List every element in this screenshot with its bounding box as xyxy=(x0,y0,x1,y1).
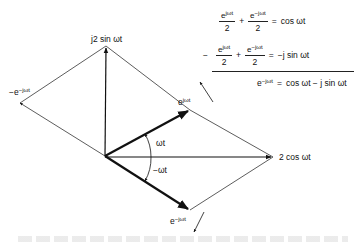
label-base: −e xyxy=(9,87,19,97)
line-upper-phasor-to-right xyxy=(190,110,273,157)
angle-arc-negative xyxy=(145,157,151,181)
numerator: ejωt xyxy=(219,10,235,22)
e-minus-jwt-phasor xyxy=(105,156,188,209)
result-lhs: e−jωt xyxy=(257,78,273,88)
summation-rule xyxy=(212,71,354,72)
num-exp: jωt xyxy=(222,44,230,50)
numerator: ejωt xyxy=(216,44,232,56)
eq-operator: + xyxy=(236,50,241,60)
label-j2-sin-prefix: j2 sin xyxy=(91,34,113,44)
eq-equals: = xyxy=(269,50,274,60)
label-exp: jωt xyxy=(183,97,191,103)
label-exp: −jωt xyxy=(19,87,30,93)
fraction-e-jwt-over-2: ejωt 2 xyxy=(216,44,232,67)
rotation-ccw-arrow-icon xyxy=(200,82,213,102)
label-angle-negative: −ωt xyxy=(153,166,167,175)
fraction-e-jwt-over-2: ejωt 2 xyxy=(219,10,235,33)
denominator: 2 xyxy=(225,22,230,33)
numerator: e−jωt xyxy=(248,10,268,22)
denominator: 2 xyxy=(253,56,258,67)
numerator: e−jωt xyxy=(245,44,265,56)
label-2-cos: 2 cos ωt xyxy=(279,153,311,162)
label-angle-positive: ωt xyxy=(156,139,165,148)
result-rhs: cos ωt − j sin ωt xyxy=(286,78,347,88)
eq-equals: = xyxy=(272,16,277,26)
denominator: 2 xyxy=(222,56,227,67)
num-exp: jωt xyxy=(225,10,233,16)
num-exp: −jωt xyxy=(255,10,266,16)
label-j2-sin-omega: ωt xyxy=(113,34,122,44)
equation-result: e−jωt = cos ωt − j sin ωt xyxy=(257,78,347,88)
equation-1: ejωt 2 + e−jωt 2 = cos ωt xyxy=(215,10,305,33)
equation-2: − ejωt 2 + e−jωt 2 = −j sin ωt xyxy=(203,44,309,67)
fraction-e-minus-jwt-over-2: e−jωt 2 xyxy=(245,44,265,67)
eq-operator: + xyxy=(239,16,244,26)
eq-equals: = xyxy=(277,78,282,88)
e-jwt-phasor xyxy=(105,111,188,156)
neg-e-minus-jwt-vector xyxy=(20,103,105,156)
j2-sin-vector xyxy=(105,48,106,156)
line-left-to-top xyxy=(20,46,106,103)
eq-rhs: −j sin ωt xyxy=(278,50,309,60)
lhs-exp: −jωt xyxy=(262,78,273,84)
label-e-jwt: ejωt xyxy=(178,97,190,107)
eq-rhs: cos ωt xyxy=(281,16,306,26)
num-exp: −jωt xyxy=(252,44,263,50)
eq-lead: − xyxy=(203,50,208,60)
label-exp: −jωt xyxy=(175,216,186,222)
angle-arc-positive xyxy=(145,134,151,157)
cropped-caption-line xyxy=(18,236,348,242)
line-lower-phasor-to-right xyxy=(190,157,273,210)
label-e-minus-jwt: e−jωt xyxy=(170,216,186,226)
label-neg-e-minus-jwt: −e−jωt xyxy=(9,87,30,97)
rotation-cw-arrow-icon xyxy=(194,212,204,232)
label-j2-sin: j2 sin ωt xyxy=(91,35,122,44)
denominator: 2 xyxy=(256,22,261,33)
fraction-e-minus-jwt-over-2: e−jωt 2 xyxy=(248,10,268,33)
